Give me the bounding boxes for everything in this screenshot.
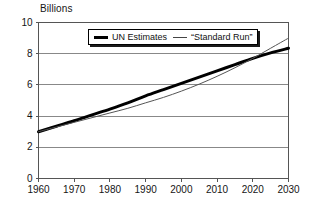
chart-legend: UN Estimates “Standard Run” bbox=[88, 29, 258, 45]
x-tick-label: 1960 bbox=[19, 185, 59, 195]
x-tick-label: 2010 bbox=[197, 185, 237, 195]
population-projection-chart: Billions 0246810 19601970198019902000201… bbox=[0, 0, 310, 216]
plot-frame bbox=[39, 23, 289, 179]
legend-label-standard-run: “Standard Run” bbox=[191, 32, 253, 42]
legend-item-un-estimates: UN Estimates bbox=[94, 30, 167, 44]
y-tick-label: 0 bbox=[3, 174, 33, 184]
x-tick-label: 1990 bbox=[126, 185, 166, 195]
y-tick-label: 2 bbox=[3, 142, 33, 152]
y-tick-label: 8 bbox=[3, 49, 33, 59]
series-line-1 bbox=[39, 48, 289, 131]
y-tick-label: 4 bbox=[3, 111, 33, 121]
y-tick-label: 6 bbox=[3, 80, 33, 90]
axis-ticks bbox=[36, 23, 289, 182]
x-tick-label: 2020 bbox=[233, 185, 273, 195]
x-tick-label: 1970 bbox=[54, 185, 94, 195]
legend-line-thick-icon bbox=[94, 36, 108, 39]
y-tick-label: 10 bbox=[3, 18, 33, 28]
x-tick-label: 2000 bbox=[161, 185, 201, 195]
gridlines bbox=[39, 54, 289, 148]
legend-label-un-estimates: UN Estimates bbox=[112, 32, 167, 42]
legend-item-standard-run: “Standard Run” bbox=[173, 30, 253, 44]
x-tick-label: 1980 bbox=[90, 185, 130, 195]
x-tick-label: 2030 bbox=[269, 185, 309, 195]
legend-line-thin-icon bbox=[173, 37, 187, 38]
